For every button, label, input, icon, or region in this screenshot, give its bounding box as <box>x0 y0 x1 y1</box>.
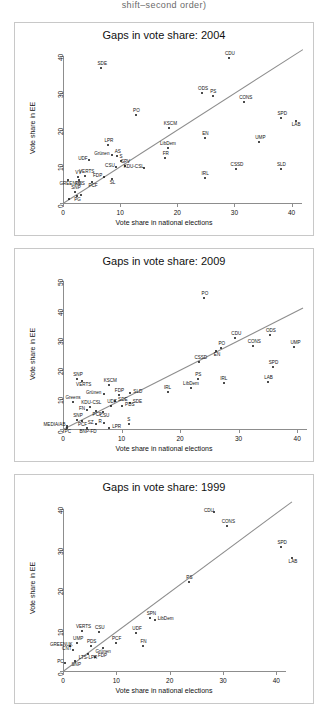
data-point <box>168 127 170 129</box>
y-tick-label: 30 <box>57 338 64 345</box>
data-point-label: CNT <box>62 647 71 652</box>
data-point <box>64 662 66 664</box>
data-point-label: UMP <box>255 136 265 141</box>
x-tick <box>116 672 117 675</box>
data-point-label: KDU-CSL <box>124 165 144 170</box>
data-point <box>228 57 230 59</box>
data-point-label: PO <box>219 342 226 347</box>
data-point-label: CONS <box>239 96 252 101</box>
data-point <box>267 381 269 383</box>
data-point-label: KSCM <box>104 379 117 384</box>
data-point <box>107 144 109 146</box>
data-point-label: CSU <box>95 626 105 631</box>
data-point <box>167 391 169 393</box>
data-point-label: ODS <box>266 329 276 334</box>
data-point-label: SNP <box>73 414 82 419</box>
scatter-plot-2009: Gaps in vote share: 20090102030405001020… <box>15 249 313 461</box>
data-point-label: PC <box>65 430 71 435</box>
y-tick-label: 40 <box>57 308 64 315</box>
data-point <box>110 405 112 407</box>
x-tick-label: 10 <box>111 677 121 684</box>
x-tick-label: 20 <box>172 209 182 216</box>
data-point <box>108 427 110 429</box>
y-axis-line <box>63 281 64 429</box>
x-tick <box>120 204 121 207</box>
y-axis-label: Vote share in EE <box>29 562 36 614</box>
data-point <box>74 191 76 193</box>
data-point-label: LAB <box>292 123 301 128</box>
data-point-label: VERTS <box>76 625 91 630</box>
data-point <box>89 406 91 408</box>
data-point <box>258 141 260 143</box>
y-axis-label: Vote share in EE <box>29 328 36 380</box>
data-point <box>212 95 214 97</box>
y-tick-label: 20 <box>57 588 64 595</box>
x-tick-label: 40 <box>287 209 297 216</box>
y-tick-label: 10 <box>57 397 64 404</box>
data-point <box>118 394 120 396</box>
data-point-label: PS <box>195 373 201 378</box>
data-point-label: CSU <box>100 414 110 419</box>
data-point <box>86 409 88 411</box>
data-point-label: IRL <box>202 172 209 177</box>
y-tick-label: 30 <box>57 547 64 554</box>
y-tick-label: 10 <box>57 164 64 171</box>
data-point-label: UDF <box>107 400 116 405</box>
data-point-label: LibDem <box>158 617 174 622</box>
x-tick <box>122 430 123 433</box>
data-point <box>103 422 105 424</box>
data-point-label: LAB <box>264 376 273 381</box>
chart-panel-2004: Gaps in vote share: 20040102030400102030… <box>14 22 314 236</box>
data-point-label: SPN <box>147 612 156 617</box>
data-point-label: PG <box>74 198 81 203</box>
data-point <box>269 334 271 336</box>
data-point <box>77 176 79 178</box>
data-point-label: FDP <box>93 174 102 179</box>
data-point <box>201 92 203 94</box>
x-tick-label: 20 <box>175 435 185 442</box>
data-point <box>98 631 100 633</box>
data-point <box>108 384 110 386</box>
y-tick-label: 40 <box>57 54 64 61</box>
data-point <box>293 346 295 348</box>
data-point <box>111 154 113 156</box>
data-point <box>72 401 74 403</box>
data-point-label: FDP <box>115 389 124 394</box>
x-tick-label: 40 <box>271 677 281 684</box>
data-point-label: CONS <box>248 340 261 345</box>
x-axis-label: Vote share in national elections <box>15 687 313 694</box>
chart-title: Gaps in vote share: 1999 <box>15 481 313 493</box>
data-point-label: SNP <box>72 663 81 668</box>
data-point-label: LAB <box>289 560 298 565</box>
data-point <box>280 117 282 119</box>
data-point-label: SLD <box>133 390 142 395</box>
y-tick-label: 50 <box>57 279 64 286</box>
data-point-label: PS <box>210 90 216 95</box>
data-point-label: PCF <box>112 637 121 642</box>
scatter-plot-2004: Gaps in vote share: 20040102030400102030… <box>15 23 313 235</box>
page-running-header: shift–second order) <box>0 0 328 13</box>
data-point-label: FR <box>163 152 169 157</box>
data-point <box>95 423 97 425</box>
data-point-label: IRL <box>220 377 227 382</box>
x-axis-line <box>63 203 302 204</box>
data-point <box>88 159 90 161</box>
data-point-label: SNP <box>71 186 80 191</box>
reference-line-45deg <box>63 49 304 204</box>
x-tick <box>180 430 181 433</box>
data-point-label: SPD <box>269 361 278 366</box>
data-point-label: Greens <box>65 396 80 401</box>
data-point-label: SLD <box>277 163 286 168</box>
chart-title: Gaps in vote share: 2009 <box>15 255 313 267</box>
x-tick-label: 0 <box>58 435 68 442</box>
data-point-label: PO <box>202 292 209 297</box>
data-point-label: R <box>98 420 101 425</box>
data-point-label: PCF <box>88 184 97 189</box>
y-tick-label: 20 <box>57 127 64 134</box>
data-point-label: Grünen <box>86 391 101 396</box>
data-point <box>76 642 78 644</box>
data-point-label: KDU-CSL <box>81 401 101 406</box>
data-point <box>204 177 206 179</box>
x-tick <box>276 672 277 675</box>
data-point <box>226 525 228 527</box>
